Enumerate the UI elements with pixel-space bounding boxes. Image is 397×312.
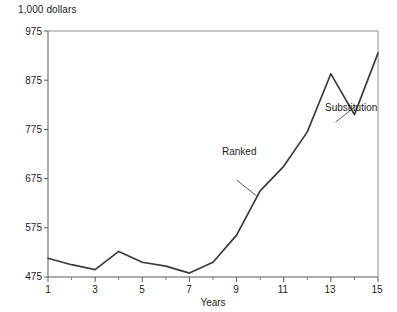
x-tick-label-3: 3 xyxy=(85,284,105,295)
annotation-label-ranked: Ranked xyxy=(222,146,256,157)
line-chart: 1,000 dollars 975 875 775 675 575 475 1 … xyxy=(0,0,397,312)
data-series-line xyxy=(48,53,378,273)
x-axis-title: Years xyxy=(183,297,243,308)
y-tick-label-675: 675 xyxy=(10,173,42,184)
annotation-label-substitution: Substitution xyxy=(325,102,377,113)
x-axis-ticks xyxy=(48,277,378,282)
y-tick-label-475: 475 xyxy=(10,271,42,282)
y-tick-label-575: 575 xyxy=(10,222,42,233)
axis-lines xyxy=(48,31,378,277)
x-tick-label-13: 13 xyxy=(320,284,340,295)
x-tick-label-15: 15 xyxy=(367,284,387,295)
x-tick-label-7: 7 xyxy=(179,284,199,295)
y-tick-label-975: 975 xyxy=(10,26,42,37)
x-tick-label-9: 9 xyxy=(226,284,246,295)
x-tick-label-1: 1 xyxy=(38,284,58,295)
y-axis-unit-label: 1,000 dollars xyxy=(18,4,77,15)
y-tick-label-875: 875 xyxy=(10,75,42,86)
x-tick-label-5: 5 xyxy=(132,284,152,295)
y-tick-label-775: 775 xyxy=(10,124,42,135)
x-tick-label-11: 11 xyxy=(273,284,293,295)
annotation-leader-ranked xyxy=(237,180,258,197)
y-axis-ticks xyxy=(44,31,48,277)
plot-area xyxy=(0,0,397,312)
